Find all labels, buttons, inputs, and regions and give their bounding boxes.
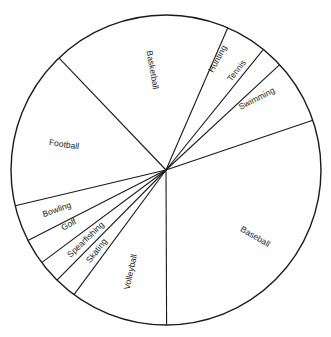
slice-divider (166, 170, 167, 325)
pie-chart: BasketballHuntingTennisSwimmingBaseballV… (0, 0, 331, 337)
